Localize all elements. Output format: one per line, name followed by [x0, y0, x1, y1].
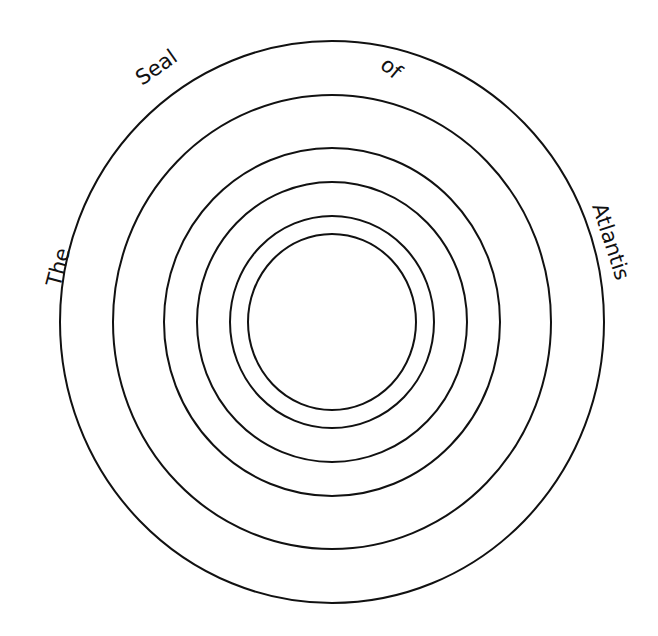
label-of: of	[376, 52, 407, 84]
label-atlantis: Atlantis	[587, 200, 634, 283]
label-the: The	[41, 245, 75, 290]
ring-2	[113, 95, 551, 549]
ring-6-inner	[248, 234, 416, 410]
ring-4	[197, 182, 467, 462]
label-seal: Seal	[131, 45, 182, 90]
ring-3	[164, 148, 500, 496]
ring-5	[230, 216, 434, 428]
seal-diagram: The Seal of Atlantis	[0, 0, 658, 636]
ring-1-outer	[60, 41, 604, 603]
